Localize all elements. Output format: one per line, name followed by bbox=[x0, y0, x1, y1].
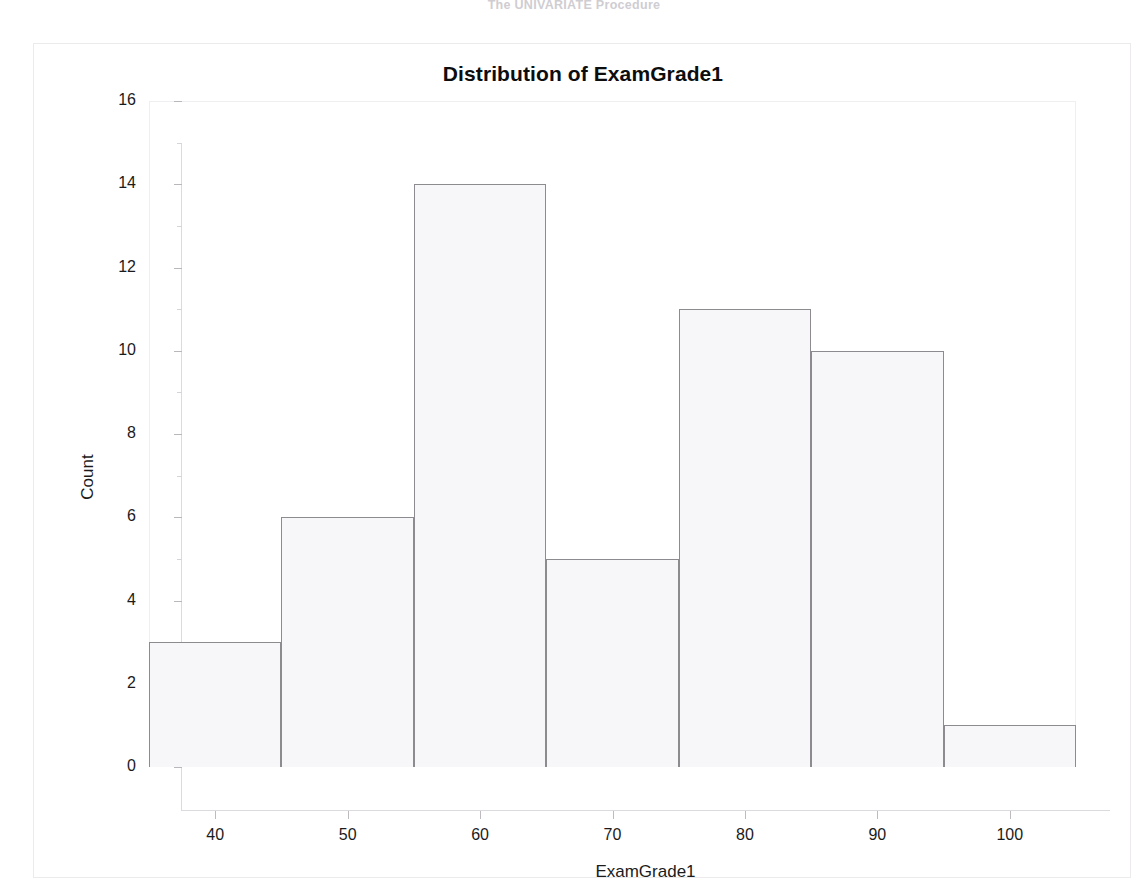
x-tick bbox=[613, 811, 614, 819]
x-tick-label: 40 bbox=[175, 826, 255, 844]
figure-frame: Distribution of ExamGrade1 Count ExamGra… bbox=[33, 43, 1131, 878]
y-tick bbox=[174, 268, 182, 269]
y-tick-label: 14 bbox=[106, 175, 136, 191]
y-tick-minor bbox=[177, 226, 182, 227]
x-tick bbox=[215, 811, 216, 819]
y-tick-label: 8 bbox=[106, 425, 136, 441]
procedure-header: The UNIVARIATE Procedure bbox=[0, 0, 1148, 12]
x-tick bbox=[745, 811, 746, 819]
x-axis-line bbox=[181, 810, 1110, 811]
y-tick bbox=[174, 767, 182, 768]
y-tick bbox=[174, 601, 182, 602]
x-tick-label: 60 bbox=[440, 826, 520, 844]
histogram-page: The UNIVARIATE Procedure Distribution of… bbox=[0, 0, 1148, 890]
histogram-bar bbox=[944, 725, 1076, 767]
y-tick-label: 6 bbox=[106, 508, 136, 524]
y-tick bbox=[174, 517, 182, 518]
histogram-bar bbox=[414, 184, 546, 767]
y-tick-label: 0 bbox=[106, 758, 136, 774]
x-tick-label: 80 bbox=[705, 826, 785, 844]
x-tick bbox=[1010, 811, 1011, 819]
x-tick-label: 70 bbox=[573, 826, 653, 844]
histogram-bar bbox=[149, 642, 281, 767]
y-tick-label: 2 bbox=[106, 675, 136, 691]
x-tick-label: 90 bbox=[837, 826, 917, 844]
x-tick-label: 100 bbox=[970, 826, 1050, 844]
chart-title: Distribution of ExamGrade1 bbox=[34, 62, 1132, 86]
x-tick bbox=[348, 811, 349, 819]
y-tick bbox=[174, 101, 182, 102]
histogram-bar bbox=[281, 517, 413, 767]
x-tick bbox=[480, 811, 481, 819]
y-tick-label: 12 bbox=[106, 259, 136, 275]
y-tick bbox=[174, 351, 182, 352]
y-tick bbox=[174, 434, 182, 435]
y-tick bbox=[174, 184, 182, 185]
x-axis-title: ExamGrade1 bbox=[182, 862, 1109, 882]
y-tick-minor bbox=[177, 309, 182, 310]
y-tick-label: 4 bbox=[106, 592, 136, 608]
y-tick-label: 10 bbox=[106, 342, 136, 358]
y-tick-label: 16 bbox=[106, 92, 136, 108]
y-axis-title: Count bbox=[78, 417, 98, 537]
y-tick-minor bbox=[177, 392, 182, 393]
y-tick-minor bbox=[177, 476, 182, 477]
y-tick-minor bbox=[177, 559, 182, 560]
y-tick-minor bbox=[177, 143, 182, 144]
histogram-bar bbox=[546, 559, 678, 767]
histogram-bar bbox=[811, 351, 943, 767]
x-tick bbox=[877, 811, 878, 819]
x-tick-label: 50 bbox=[308, 826, 388, 844]
histogram-bar bbox=[679, 309, 811, 767]
